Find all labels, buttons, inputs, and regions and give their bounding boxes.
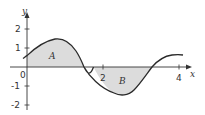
x-tick-label-4: 4 <box>176 73 182 83</box>
region-a-fill <box>27 39 84 67</box>
y-tick-label-1: 1 <box>15 43 21 53</box>
y-tick-label-neg2: -2 <box>11 100 20 110</box>
origin-label: 0 <box>20 70 26 80</box>
region-a-label: A <box>48 51 56 61</box>
y-tick-label-neg1: -1 <box>11 81 20 91</box>
x-tick-label-2: 2 <box>100 73 106 83</box>
chart: 2 1 -1 -2 0 2 4 x y A B <box>0 0 205 115</box>
region-b-label: B <box>118 76 126 86</box>
y-axis-label: y <box>21 6 28 16</box>
x-axis-label: x <box>190 69 195 79</box>
y-tick-label-2: 2 <box>15 24 21 34</box>
